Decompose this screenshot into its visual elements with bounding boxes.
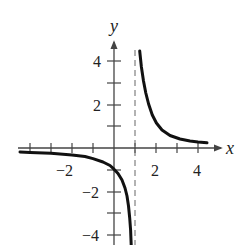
- graph-canvas: y x −2 2 4 4 2 −2 −4: [0, 0, 245, 245]
- y-axis-label: y: [108, 16, 118, 36]
- x-tick-label-2: 2: [151, 162, 159, 179]
- x-axis-label: x: [225, 138, 234, 158]
- x-axis: [18, 143, 221, 153]
- curve-right-branch: [140, 51, 207, 143]
- y-tick-label-2: 2: [93, 97, 101, 114]
- x-tick-label-4: 4: [193, 162, 201, 179]
- y-tick-label-4: 4: [93, 53, 101, 70]
- x-tick-label-neg2: −2: [56, 162, 73, 179]
- y-axis: [107, 42, 121, 245]
- y-tick-label-neg4: −4: [82, 227, 99, 244]
- y-tick-label-neg2: −2: [82, 184, 99, 201]
